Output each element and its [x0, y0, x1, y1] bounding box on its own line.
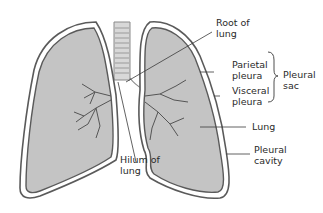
- label-parietal-pleura: Parietal pleura: [232, 60, 268, 81]
- lungs-diagram: [0, 0, 323, 213]
- label-pleural-cavity: Pleural cavity: [254, 145, 287, 166]
- label-root-of-lung: Root of lung: [216, 18, 250, 39]
- label-pleural-sac: Pleural sac: [283, 70, 316, 91]
- left-lung: [20, 22, 118, 198]
- label-hilum-of-lung: Hilum of lung: [120, 155, 160, 176]
- label-lung: Lung: [252, 122, 275, 133]
- label-visceral-pleura: Visceral pleura: [232, 86, 269, 107]
